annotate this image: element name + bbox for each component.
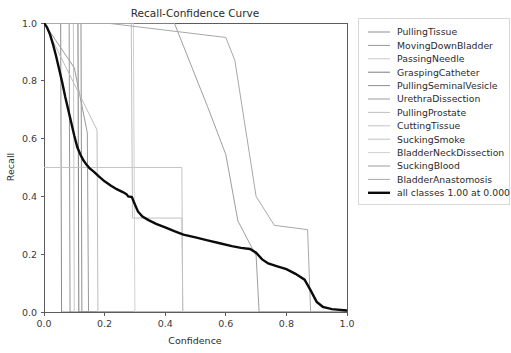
x-tick-label: 0.8 — [279, 318, 294, 329]
x-tick-label: 0.2 — [97, 318, 112, 329]
legend-label-7: CuttingTissue — [397, 120, 461, 131]
y-tick-label: 1.0 — [22, 18, 37, 29]
chart-title: Recall-Confidence Curve — [131, 7, 259, 19]
x-tick-label: 0.4 — [158, 318, 173, 329]
legend-label-8: SuckingSmoke — [397, 134, 465, 145]
legend-label-11: BladderAnastomosis — [397, 174, 492, 185]
legend-label-0: PullingTissue — [397, 26, 457, 37]
recall-confidence-chart: 0.00.20.40.60.81.0 0.00.20.40.60.81.0 Re… — [0, 0, 511, 353]
y-tick-label: 0.4 — [22, 191, 37, 202]
figure-root: 0.00.20.40.60.81.0 0.00.20.40.60.81.0 Re… — [0, 0, 511, 353]
y-axis-title: Recall — [5, 153, 16, 181]
legend-label-1: MovingDownBladder — [397, 40, 493, 51]
x-axis-title: Confidence — [168, 335, 222, 346]
y-tick-label: 0.0 — [22, 307, 37, 318]
legend-label-12: all classes 1.00 at 0.000 — [397, 187, 510, 198]
legend-label-5: UrethraDissection — [397, 93, 480, 104]
legend-label-3: GraspingCatheter — [397, 67, 480, 78]
legend-label-9: BladderNeckDissection — [397, 147, 504, 158]
legend-label-2: PassingNeedle — [397, 53, 465, 64]
x-tick-label: 0.6 — [218, 318, 233, 329]
y-tick-label: 0.6 — [22, 133, 37, 144]
x-tick-label: 1.0 — [339, 318, 354, 329]
x-tick-label: 0.0 — [36, 318, 51, 329]
y-tick-label: 0.8 — [22, 75, 37, 86]
legend-label-6: PullingProstate — [397, 107, 466, 118]
chart-legend: PullingTissueMovingDownBladderPassingNee… — [359, 19, 511, 205]
legend-label-10: SuckingBlood — [397, 160, 460, 171]
y-tick-label: 0.2 — [22, 249, 37, 260]
legend-label-4: PullingSeminalVesicle — [397, 80, 498, 91]
